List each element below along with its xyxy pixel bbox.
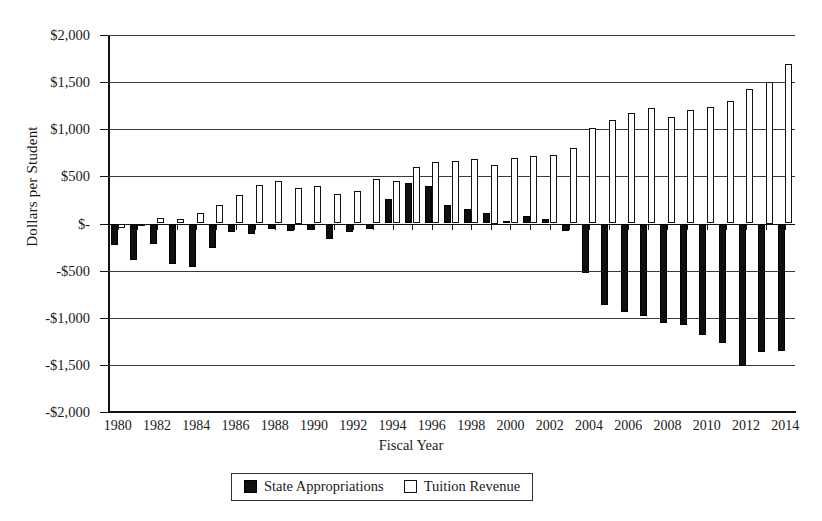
bar-state-appropriations xyxy=(385,199,392,223)
x-tick-mark xyxy=(530,224,531,230)
x-tick-label: 1988 xyxy=(253,418,297,434)
bar-state-appropriations xyxy=(268,224,275,230)
bar-tuition-revenue xyxy=(413,167,420,224)
gridline xyxy=(108,82,795,83)
x-tick-mark xyxy=(628,224,629,230)
x-tick-mark xyxy=(294,224,295,230)
bar-state-appropriations xyxy=(699,224,706,335)
x-tick-mark xyxy=(236,224,237,230)
bar-tuition-revenue xyxy=(138,224,145,226)
x-tick-mark xyxy=(393,224,394,230)
bar-tuition-revenue xyxy=(452,161,459,223)
bar-state-appropriations xyxy=(719,224,726,343)
bar-tuition-revenue xyxy=(197,213,204,223)
bar-tuition-revenue xyxy=(648,108,655,224)
x-tick-mark xyxy=(746,224,747,230)
x-tick-label: 2008 xyxy=(645,418,689,434)
bar-state-appropriations xyxy=(483,213,490,223)
bar-tuition-revenue xyxy=(216,205,223,223)
bar-tuition-revenue xyxy=(511,158,518,224)
bar-state-appropriations xyxy=(680,224,687,326)
x-tick-label: 2004 xyxy=(567,418,611,434)
x-tick-label: 1986 xyxy=(214,418,258,434)
x-tick-label: 1998 xyxy=(449,418,493,434)
bar-tuition-revenue xyxy=(295,188,302,223)
y-tick-mark xyxy=(100,35,108,36)
y-tick-mark xyxy=(100,224,108,225)
legend-swatch-outlined-icon xyxy=(404,480,417,493)
y-tick-label: -$500 xyxy=(4,264,90,279)
bar-state-appropriations xyxy=(169,224,176,265)
gridline xyxy=(108,318,795,319)
legend-label: State Appropriations xyxy=(264,478,384,495)
x-tick-mark xyxy=(785,224,786,230)
x-tick-mark xyxy=(255,224,256,230)
x-tick-mark xyxy=(412,224,413,230)
gridline xyxy=(108,271,795,272)
y-tick-mark xyxy=(100,176,108,177)
x-axis-title: Fiscal Year xyxy=(0,437,822,454)
bar-tuition-revenue xyxy=(550,155,557,224)
bar-tuition-revenue xyxy=(609,120,616,223)
y-tick-mark xyxy=(100,365,108,366)
x-tick-label: 1990 xyxy=(292,418,336,434)
x-tick-mark xyxy=(353,224,354,230)
bar-state-appropriations xyxy=(248,224,255,234)
x-tick-label: 2012 xyxy=(724,418,768,434)
bar-state-appropriations xyxy=(640,224,647,316)
y-tick-label: $2,000 xyxy=(4,28,90,43)
bar-tuition-revenue xyxy=(766,82,773,223)
bar-state-appropriations xyxy=(150,224,157,245)
bar-tuition-revenue xyxy=(727,101,734,224)
bar-tuition-revenue xyxy=(236,195,243,224)
y-tick-label: $- xyxy=(4,217,90,232)
y-tick-mark xyxy=(100,82,108,83)
x-tick-mark xyxy=(766,224,767,230)
legend-entry: Tuition Revenue xyxy=(404,478,521,495)
legend-label: Tuition Revenue xyxy=(424,478,521,495)
x-tick-mark xyxy=(118,224,119,230)
x-tick-mark xyxy=(648,224,649,230)
x-tick-label: 1982 xyxy=(135,418,179,434)
bar-state-appropriations xyxy=(425,186,432,223)
x-tick-mark xyxy=(373,224,374,230)
bar-tuition-revenue xyxy=(785,64,792,223)
x-tick-mark xyxy=(589,224,590,230)
bar-state-appropriations xyxy=(562,224,569,231)
x-tick-mark xyxy=(726,224,727,230)
bar-state-appropriations xyxy=(464,209,471,224)
legend-swatch-filled-icon xyxy=(244,480,257,493)
bar-state-appropriations xyxy=(660,224,667,324)
x-tick-label: 1992 xyxy=(331,418,375,434)
bar-tuition-revenue xyxy=(256,185,263,223)
bar-chart: Dollars per Student Fiscal Year $2,000$1… xyxy=(0,0,822,521)
x-tick-mark xyxy=(491,224,492,230)
x-tick-mark xyxy=(687,224,688,230)
bar-state-appropriations xyxy=(209,224,216,249)
y-tick-mark xyxy=(100,318,108,319)
x-tick-mark xyxy=(275,224,276,230)
bar-tuition-revenue xyxy=(314,186,321,224)
y-tick-label: -$1,000 xyxy=(4,311,90,326)
x-tick-mark xyxy=(177,224,178,230)
x-tick-mark xyxy=(196,224,197,230)
bar-state-appropriations xyxy=(111,224,118,246)
x-tick-label: 2002 xyxy=(528,418,572,434)
bar-state-appropriations xyxy=(778,224,785,352)
bar-tuition-revenue xyxy=(668,117,675,224)
x-tick-mark xyxy=(432,224,433,230)
y-tick-mark xyxy=(100,129,108,130)
bar-state-appropriations xyxy=(582,224,589,274)
bar-tuition-revenue xyxy=(628,113,635,224)
y-tick-label: $500 xyxy=(4,169,90,184)
bar-tuition-revenue xyxy=(334,194,341,224)
bar-tuition-revenue xyxy=(491,165,498,224)
legend-entry: State Appropriations xyxy=(244,478,384,495)
x-tick-label: 1996 xyxy=(410,418,454,434)
chart-legend: State AppropriationsTuition Revenue xyxy=(231,473,533,501)
bar-tuition-revenue xyxy=(707,107,714,224)
bar-state-appropriations xyxy=(523,216,530,223)
y-tick-mark xyxy=(100,271,108,272)
bar-tuition-revenue xyxy=(275,181,282,223)
bar-state-appropriations xyxy=(287,224,294,232)
